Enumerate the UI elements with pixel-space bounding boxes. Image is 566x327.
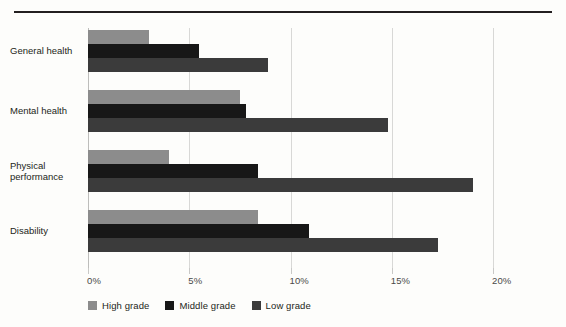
bar [88, 210, 258, 224]
bar-group [88, 90, 493, 132]
category-label-line: performance [10, 171, 63, 183]
bar [88, 238, 438, 252]
gridline-20pct [493, 28, 494, 268]
bar [88, 178, 473, 192]
x-tick-mark [392, 268, 393, 274]
category-label: General health [10, 30, 88, 72]
x-tick-mark [493, 268, 494, 274]
x-tick-label: 10% [290, 275, 309, 286]
plot-area [88, 28, 493, 268]
x-tick-label: 5% [188, 275, 202, 286]
x-tick-label: 15% [391, 275, 410, 286]
bar [88, 150, 169, 164]
bar-group [88, 210, 493, 252]
category-label-text: Mental health [10, 105, 67, 117]
x-tick-mark [189, 268, 190, 274]
legend-label: High grade [102, 300, 149, 311]
legend-item[interactable]: Middle grade [165, 300, 235, 311]
x-axis-tick-labels: 0%5%10%15%20% [0, 275, 566, 291]
category-label-line: Physical [10, 160, 63, 172]
category-label: Mental health [10, 90, 88, 132]
legend-item[interactable]: High grade [88, 300, 149, 311]
category-label-line: General health [10, 45, 72, 57]
bar [88, 90, 240, 104]
category-label: Physicalperformance [10, 150, 88, 192]
legend-swatch-icon [88, 301, 97, 310]
chart-legend: High gradeMiddle gradeLow grade [88, 297, 327, 313]
legend-label: Low grade [266, 300, 311, 311]
bar [88, 104, 246, 118]
category-label: Disability [10, 210, 88, 252]
category-axis-labels: General healthMental healthPhysicalperfo… [0, 28, 84, 268]
x-tick-mark [88, 268, 89, 274]
chart-figure: General healthMental healthPhysicalperfo… [0, 0, 566, 327]
legend-label: Middle grade [179, 300, 235, 311]
category-label-line: Mental health [10, 105, 67, 117]
category-label-line: Disability [10, 225, 48, 237]
top-rule-divider [14, 11, 552, 13]
bar [88, 58, 268, 72]
bar [88, 224, 309, 238]
bar [88, 30, 149, 44]
bar [88, 164, 258, 178]
x-tick-label: 0% [87, 275, 101, 286]
legend-item[interactable]: Low grade [252, 300, 311, 311]
category-label-text: Physicalperformance [10, 160, 63, 183]
legend-swatch-icon [252, 301, 261, 310]
bar [88, 118, 388, 132]
bar-group [88, 150, 493, 192]
category-label-text: General health [10, 45, 72, 57]
x-tick-label: 20% [492, 275, 511, 286]
bar [88, 44, 199, 58]
x-tick-mark [291, 268, 292, 274]
bar-group [88, 30, 493, 72]
category-label-text: Disability [10, 225, 48, 237]
legend-swatch-icon [165, 301, 174, 310]
